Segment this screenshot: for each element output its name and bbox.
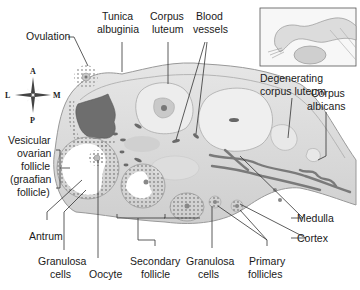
stroma xyxy=(124,136,160,152)
label-granulosa-cells-left-2: cells xyxy=(50,268,71,280)
corpus-luteum xyxy=(136,83,193,134)
label-vesicular-follicle-3: follicle xyxy=(21,160,50,172)
label-corpus-luteum-2: luteum xyxy=(152,23,184,35)
label-vesicular-follicle-1: Vesicular xyxy=(8,134,51,146)
label-degenerating-corpus-luteum-1: Degenerating xyxy=(260,72,323,84)
compass-lateral: L xyxy=(5,91,10,100)
label-cortex: Cortex xyxy=(297,232,329,244)
label-tunica-albuginia-2: albuginia xyxy=(97,23,139,35)
label-primary-follicles-1: Primary xyxy=(249,255,286,267)
label-medulla: Medulla xyxy=(297,212,334,224)
label-vesicular-follicle-5: follicle) xyxy=(17,186,50,198)
label-corpus-albicans-2: albicans xyxy=(307,100,346,112)
ovary-diagram: A L M P Ovulation Tunica albuginia Corpu… xyxy=(0,0,360,290)
label-blood-vessels-1: Blood xyxy=(196,10,223,22)
label-vesicular-follicle-4: (graafian xyxy=(10,173,52,185)
label-primary-follicles-2: follicles xyxy=(248,268,282,280)
label-granulosa-cells-right-1: Granulosa xyxy=(186,255,235,267)
label-granulosa-cells-right-2: cells xyxy=(198,268,219,280)
compass-posterior: P xyxy=(30,116,35,125)
inset-overview xyxy=(260,8,356,66)
label-granulosa-cells-left-1: Granulosa xyxy=(38,255,87,267)
label-secondary-follicle-2: follicle xyxy=(141,268,170,280)
label-vesicular-follicle-2: ovarian xyxy=(17,147,52,159)
compass-anterior: A xyxy=(30,67,36,76)
label-ovulation: Ovulation xyxy=(26,30,71,42)
label-corpus-luteum-1: Corpus xyxy=(150,10,184,22)
label-secondary-follicle-1: Secondary xyxy=(130,255,181,267)
label-corpus-albicans-1: Corpus xyxy=(311,87,345,99)
corpus-luteum-large xyxy=(199,88,273,151)
label-oocyte: Oocyte xyxy=(89,268,122,280)
label-antrum: Antrum xyxy=(29,230,63,242)
label-blood-vessels-2: vessels xyxy=(193,23,228,35)
compass-medial: M xyxy=(53,91,61,100)
label-tunica-albuginia-1: Tunica xyxy=(102,10,133,22)
compass-rose: A L M P xyxy=(5,67,61,125)
